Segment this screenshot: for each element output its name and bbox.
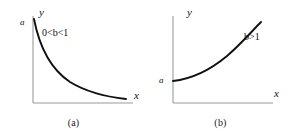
panel-a-intercept-label: a [20,18,25,27]
panel-b-y-axis-label: y [187,7,192,18]
panel-b-caption: (b) [147,117,294,128]
panel-b-intercept-label: a [159,76,164,85]
panel-b-curve-label: b>1 [244,32,260,42]
figure-sheet: y x a 0<b<1 (a) y x a b>1 (b) [0,0,294,132]
figure-panel-a: y x a 0<b<1 (a) [0,0,147,132]
panel-a-y-axis-label: y [39,7,44,18]
panel-a-curve-label: 0<b<1 [42,28,68,38]
panel-b-x-axis-label: x [274,88,279,99]
figure-panel-b: y x a b>1 (b) [147,0,294,132]
panel-a-caption: (a) [0,117,147,128]
panel-b-plot [147,0,294,132]
panel-a-x-axis-label: x [134,90,139,101]
